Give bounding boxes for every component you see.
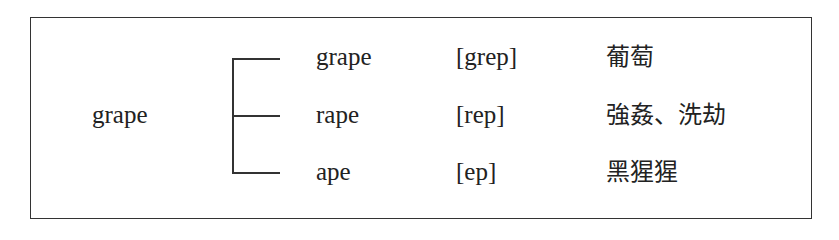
meaning: 強姦、洗劫 [606,100,726,130]
meaning: 葡萄 [606,42,654,72]
bracket-branch-3 [232,172,280,174]
root-word: grape [92,100,148,130]
bracket-branch-2 [232,115,280,117]
derived-word: ape [316,157,351,187]
meaning: 黑猩猩 [606,157,678,187]
phonetic: [rep] [456,100,505,130]
derived-word: rape [316,100,359,130]
phonetic: [grep] [456,42,517,72]
bracket-branch-1 [232,58,280,60]
phonetic: [ep] [456,157,496,187]
derived-word: grape [316,42,372,72]
